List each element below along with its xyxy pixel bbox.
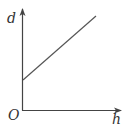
line-chart: d O h xyxy=(0,0,126,128)
y-axis-label: d xyxy=(7,11,16,25)
origin-label: O xyxy=(8,108,19,122)
x-axis-label: h xyxy=(112,112,121,126)
data-line xyxy=(23,16,96,80)
